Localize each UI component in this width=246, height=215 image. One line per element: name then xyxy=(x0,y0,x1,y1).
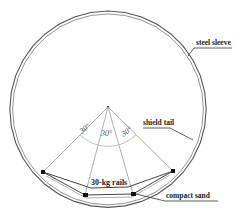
support-right xyxy=(171,169,175,173)
shield-tail-label: shield tail xyxy=(143,118,174,127)
tunnel-cross-section-diagram: 30° 30° 30° steel sleeve shield tail 30-… xyxy=(0,0,246,215)
steel-sleeve-label: steel sleeve xyxy=(196,38,231,47)
rails-label: 30-kg rails xyxy=(91,178,127,187)
compact-sand-label: compact sand xyxy=(166,191,211,200)
support-left xyxy=(41,170,45,174)
angle-label-center: 30° xyxy=(100,129,113,138)
support-bottom-left xyxy=(83,193,88,197)
shield-tail-leader xyxy=(143,128,193,140)
support-bottom-right xyxy=(131,192,136,196)
steel-sleeve-leader xyxy=(188,48,232,56)
angle-label-left: 30° xyxy=(77,121,93,136)
diagram-svg: 30° 30° 30° steel sleeve shield tail 30-… xyxy=(0,0,246,215)
shield-tail-outline xyxy=(13,14,204,205)
angle-label-right: 30° xyxy=(119,124,135,139)
